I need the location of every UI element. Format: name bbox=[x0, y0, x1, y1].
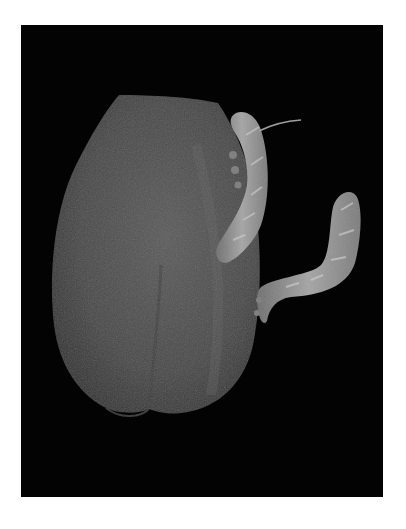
photograph: Grayscale photo of a bell pepper with tw… bbox=[21, 25, 383, 497]
caterpillar-lower bbox=[254, 192, 361, 323]
